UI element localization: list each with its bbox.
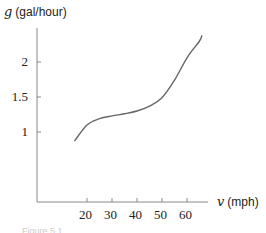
x-tick-label: 50 — [154, 207, 167, 223]
y-tick-label: 2 — [22, 54, 29, 70]
x-tick-label: 30 — [104, 207, 117, 223]
x-tick-label: 40 — [129, 207, 142, 223]
x-tick-label: 20 — [79, 207, 92, 223]
y-ticks — [37, 62, 41, 132]
y-tick-label: 1 — [22, 124, 29, 140]
x-axis-variable: v — [217, 194, 224, 209]
figure-caption: Figure 5.1 — [22, 226, 63, 233]
chart: g (gal/hour) v (mph) 203040506011.52 Fig… — [0, 0, 266, 233]
x-axis-unit: (mph) — [227, 195, 258, 209]
x-ticks — [87, 198, 187, 202]
y-axis-variable: g — [4, 4, 12, 19]
x-axis-label: v (mph) — [217, 194, 259, 210]
x-tick-label: 60 — [179, 207, 192, 223]
y-axis-unit: (gal/hour) — [15, 5, 66, 19]
data-curve — [75, 35, 203, 141]
y-axis-label: g (gal/hour) — [4, 4, 67, 20]
y-tick-label: 1.5 — [12, 89, 28, 105]
